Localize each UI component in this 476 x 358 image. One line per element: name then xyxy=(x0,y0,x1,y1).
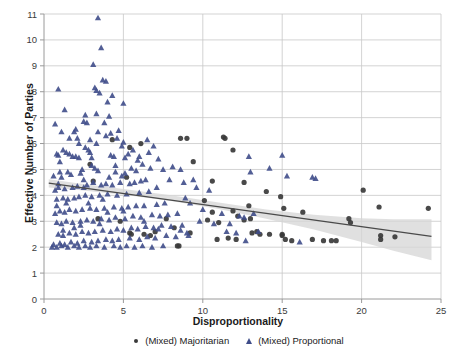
chart-legend: (Mixed) Majoritarian (Mixed) Proportiona… xyxy=(0,335,476,346)
circle-marker-icon xyxy=(132,336,141,345)
legend-label-proportional: (Mixed) Proportional xyxy=(258,335,344,346)
y-tick-label: 0 xyxy=(32,294,37,305)
legend-label-majoritarian: (Mixed) Majoritarian xyxy=(145,335,229,346)
y-tick-label: 1 xyxy=(32,268,37,279)
y-tick-label: 11 xyxy=(27,9,37,20)
y-tick-label: 2 xyxy=(32,242,37,253)
y-axis-label: Effective Number of Parties xyxy=(19,68,35,238)
plot-svg: 012345678910110510152025 xyxy=(0,0,476,358)
triangle-marker-icon xyxy=(245,336,254,345)
x-axis-label: Disproportionality xyxy=(0,315,476,327)
y-tick-label: 10 xyxy=(26,34,37,45)
scatter-plot-area: 012345678910110510152025 xyxy=(0,0,476,358)
legend-item-proportional: (Mixed) Proportional xyxy=(245,335,344,346)
legend-item-majoritarian: (Mixed) Majoritarian xyxy=(132,335,229,346)
chart-figure: 012345678910110510152025 Effective Numbe… xyxy=(0,0,476,358)
y-axis-label-text: Effective Number of Parties xyxy=(23,83,35,223)
